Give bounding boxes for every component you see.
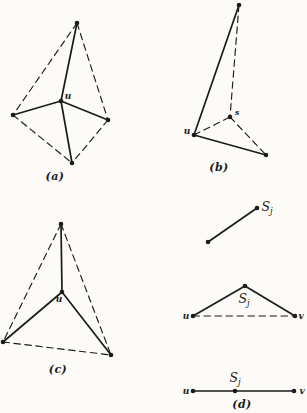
vertex-d-apex — [243, 284, 248, 289]
steiner-label-base: S — [238, 291, 247, 306]
steiner-label-sub: j — [247, 298, 250, 308]
edge-a-u-left — [13, 101, 61, 115]
edge-a-right-bottom — [72, 120, 108, 163]
steiner-label-base: S — [229, 370, 238, 385]
vertex-c-bl — [1, 340, 6, 345]
edge-b-top-s — [230, 5, 239, 117]
vertex-label-d3-u: u — [183, 387, 190, 396]
vertex-a-bottom — [70, 161, 75, 166]
figure-page: u u s u u v u v Sj Sj Sj (a) (b) (c) (d) — [0, 0, 307, 413]
caption-b: (b) — [209, 162, 229, 173]
vertex-label-a-u: u — [65, 92, 72, 101]
steiner-label-sub: j — [270, 206, 273, 216]
steiner-label-base: S — [261, 199, 270, 214]
vertex-label-d2-v: v — [298, 312, 303, 321]
vertex-d-p2 — [255, 206, 260, 211]
edge-b-u-top — [194, 5, 239, 135]
vertex-d-u3 — [191, 389, 196, 394]
edge-c-u-br — [62, 292, 111, 355]
vertex-label-c-u: u — [56, 295, 63, 304]
vertex-d-u2 — [191, 314, 196, 319]
vertex-b-s — [228, 115, 233, 120]
vertex-b-br — [264, 153, 269, 158]
steiner-label-d3: Sj — [229, 372, 240, 385]
steiner-label-sub: j — [238, 377, 241, 387]
vertex-label-d2-u: u — [183, 312, 190, 321]
vertex-d-m3 — [233, 389, 238, 394]
edge-d-p1-p2 — [208, 208, 257, 242]
edge-c-bl-br — [3, 342, 111, 355]
edge-c-u-bl — [3, 292, 62, 342]
edge-a-u-bottom — [61, 101, 72, 163]
caption-a: (a) — [45, 171, 64, 182]
vertex-d-v3 — [292, 389, 297, 394]
edge-c-top-bl — [3, 224, 61, 342]
edge-a-top-right — [77, 23, 108, 120]
edge-d-apex-u2 — [193, 286, 245, 316]
edge-b-u-br — [194, 135, 266, 155]
vertex-c-br — [109, 353, 114, 358]
vertex-a-left — [11, 113, 16, 118]
vertex-a-top — [75, 21, 80, 26]
vertex-label-b-u: u — [184, 127, 191, 136]
vertex-label-d3-v: v — [299, 387, 304, 396]
caption-c: (c) — [49, 364, 68, 375]
edge-c-top-br — [61, 224, 111, 355]
edge-c-u-top — [61, 224, 62, 292]
vertex-a-right — [106, 118, 111, 123]
edge-a-u-right — [61, 101, 108, 120]
vertex-b-top — [237, 3, 242, 8]
steiner-label-d2: Sj — [238, 293, 249, 306]
edge-d-apex-v2 — [245, 286, 295, 316]
vertex-label-b-s: s — [235, 109, 239, 117]
vertex-a-u — [59, 99, 64, 104]
edge-a-left-bottom — [13, 115, 72, 163]
steiner-label-d1: Sj — [261, 201, 272, 214]
vertex-c-top — [59, 222, 64, 227]
vertex-d-p1 — [206, 240, 211, 245]
vertex-b-u — [192, 133, 197, 138]
vertex-d-v2 — [293, 314, 298, 319]
caption-d: (d) — [232, 399, 252, 410]
